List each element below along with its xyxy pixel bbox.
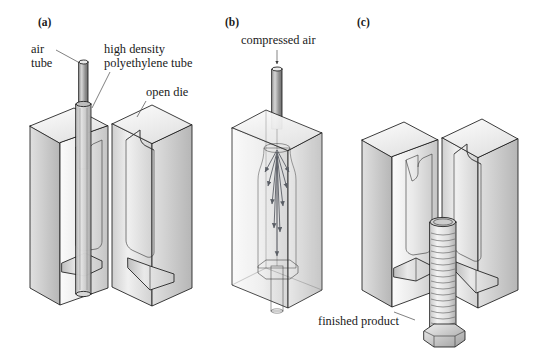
panel-b-callout-compressed-air: compressed air xyxy=(241,33,317,64)
panel-a-letter: (a) xyxy=(38,16,52,29)
panel-a-callout-air-tube: air tube xyxy=(31,42,78,70)
panel-a: (a) xyxy=(30,16,193,306)
panel-a-polyethylene-tube xyxy=(76,101,91,296)
panel-c: (c) xyxy=(318,16,518,347)
blow-molding-figure: (a) xyxy=(0,0,533,363)
panel-c-letter: (c) xyxy=(357,16,370,29)
panel-a-right-die-block xyxy=(112,105,192,306)
panel-b: (b) compressed air xyxy=(225,16,322,313)
air-tube-label-line2: tube xyxy=(31,56,53,70)
panel-c-callout-finished-product: finished product xyxy=(318,312,415,328)
polyethylene-tube-label-line2: polyethylene tube xyxy=(104,56,193,70)
finished-product-label: finished product xyxy=(318,314,399,328)
figure-canvas: (a) xyxy=(0,0,533,363)
panel-c-left-die-block xyxy=(362,122,438,307)
compressed-air-label: compressed air xyxy=(241,33,317,47)
polyethylene-tube-label-line1: high density xyxy=(104,42,166,56)
panel-a-left-die-block xyxy=(30,108,108,305)
panel-b-letter: (b) xyxy=(225,16,239,29)
open-die-label: open die xyxy=(146,85,189,99)
air-tube-label-line1: air xyxy=(31,42,45,56)
